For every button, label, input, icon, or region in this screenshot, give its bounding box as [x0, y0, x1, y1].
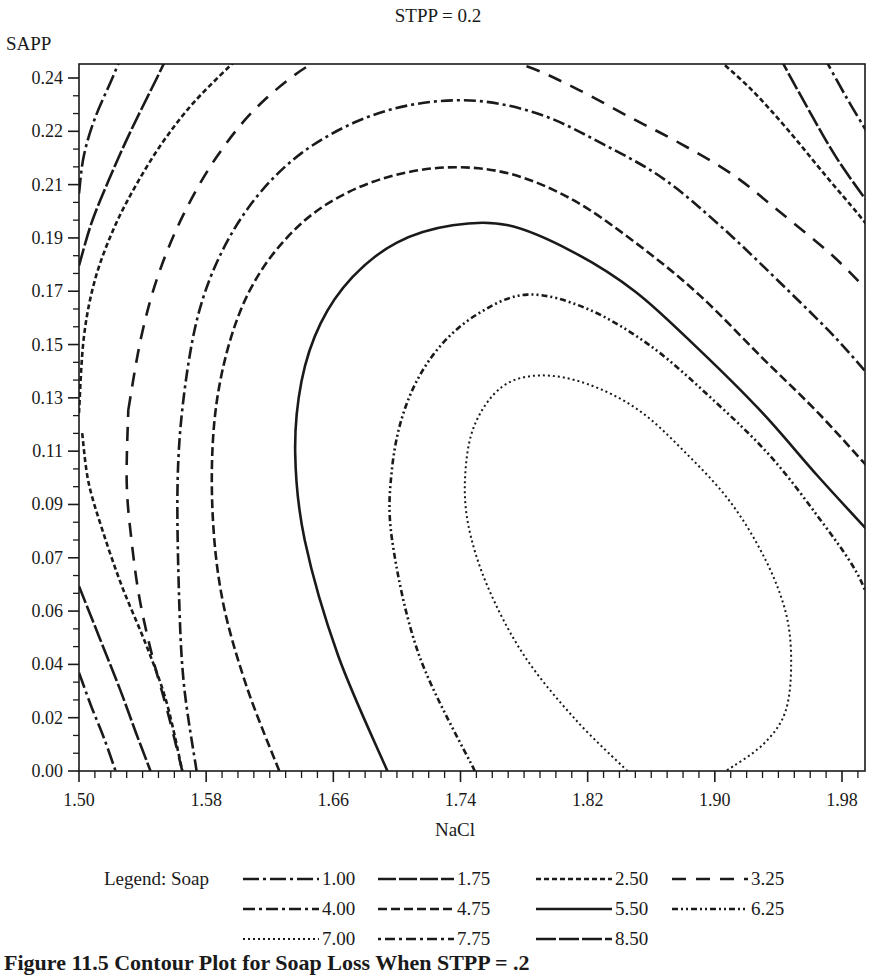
x-tick-label: 1.66 [318, 790, 350, 810]
y-tick-label: 0.24 [32, 68, 64, 88]
legend-title: Legend: Soap [104, 868, 209, 889]
y-tick-label: 0.22 [32, 121, 64, 141]
legend-item-1-75: 1.75 [378, 868, 490, 889]
legend-item-8-50: 8.50 [536, 928, 648, 949]
y-tick-label: 0.04 [32, 654, 64, 674]
contour-lines [79, 49, 874, 771]
contour-line-2-50 [79, 55, 241, 413]
x-tick-label: 1.98 [826, 790, 858, 810]
contour-line-3-25 [128, 49, 874, 410]
x-tick-label: 1.82 [572, 790, 604, 810]
legend-item-label: 7.75 [457, 928, 490, 949]
legend-item-6-25: 6.25 [672, 898, 784, 919]
chart-title: STPP = 0.2 [395, 5, 482, 26]
legend-item-label: 4.75 [457, 898, 490, 919]
contour-line-7-00 [465, 375, 791, 771]
legend-item-4-00: 4.00 [243, 898, 355, 919]
legend-item-label: 8.50 [615, 928, 648, 949]
legend: 1.001.752.503.254.004.755.506.257.007.75… [243, 868, 784, 949]
y-tick-label: 0.06 [32, 601, 64, 621]
legend-item-4-75: 4.75 [378, 898, 490, 919]
figure-caption: Figure 11.5 Contour Plot for Soap Loss W… [4, 950, 530, 976]
plot-frame [79, 64, 865, 771]
y-tick-label: 0.09 [32, 494, 64, 514]
contour-line-1-75 [79, 55, 168, 266]
legend-item-7-00: 7.00 [243, 928, 355, 949]
y-tick-label: 0.00 [32, 761, 64, 781]
legend-item-5-50: 5.50 [536, 898, 648, 919]
contour-line-1-00 [79, 55, 122, 194]
legend-item-7-75: 7.75 [378, 928, 490, 949]
legend-item-label: 6.25 [751, 898, 784, 919]
contour-line-4-00 [177, 100, 873, 771]
legend-item-label: 3.25 [751, 868, 784, 889]
contour-line-1-75 [79, 586, 151, 771]
legend-item-2-50: 2.50 [536, 868, 648, 889]
x-axis-label: NaCl [435, 819, 475, 840]
contour-line-2-50 [82, 433, 182, 771]
y-tick-label: 0.13 [32, 388, 64, 408]
legend-item-label: 2.50 [615, 868, 648, 889]
y-tick-label: 0.07 [32, 548, 64, 568]
y-axis: 0.240.220.210.190.170.150.130.110.090.07… [32, 68, 80, 781]
x-tick-label: 1.50 [63, 790, 95, 810]
contour-line-4-75 [212, 167, 874, 771]
contour-line-6-25 [389, 295, 873, 771]
contour-line-3-25 [127, 410, 183, 771]
legend-item-label: 4.00 [322, 898, 355, 919]
contour-line-5-50 [295, 223, 874, 771]
x-axis: 1.501.581.661.741.821.901.98 [63, 771, 858, 810]
contour-line-1-00 [79, 673, 116, 771]
y-tick-label: 0.19 [32, 228, 64, 248]
y-tick-label: 0.21 [32, 175, 64, 195]
legend-item-label: 1.00 [322, 868, 355, 889]
y-axis-label: SAPP [6, 33, 51, 54]
contour-line-1-75 [778, 55, 873, 211]
contour-line-1-00 [823, 55, 874, 144]
legend-item-label: 5.50 [615, 898, 648, 919]
legend-item-3-25: 3.25 [672, 868, 784, 889]
y-tick-label: 0.11 [32, 441, 63, 461]
y-tick-label: 0.17 [32, 281, 64, 301]
legend-item-label: 1.75 [457, 868, 490, 889]
x-tick-label: 1.90 [699, 790, 731, 810]
y-tick-label: 0.15 [32, 335, 64, 355]
legend-item-label: 7.00 [322, 928, 355, 949]
x-tick-label: 1.74 [445, 790, 477, 810]
y-tick-label: 0.02 [32, 708, 64, 728]
x-tick-label: 1.58 [190, 790, 222, 810]
legend-item-1-00: 1.00 [243, 868, 355, 889]
